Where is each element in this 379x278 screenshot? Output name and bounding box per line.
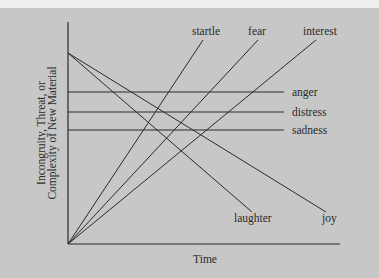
- label-distress: distress: [292, 106, 327, 118]
- y-axis-title-line-2: Complexity of New Material: [46, 66, 59, 199]
- line-laughter: [68, 53, 252, 212]
- line-joy: [68, 53, 326, 212]
- emotion-activation-diagram: startle fear interest anger distress sad…: [0, 0, 379, 278]
- line-interest: [68, 40, 316, 244]
- label-sadness: sadness: [292, 124, 328, 136]
- x-axis-title: Time: [193, 253, 217, 265]
- label-interest: interest: [303, 25, 338, 37]
- label-fear: fear: [248, 25, 266, 37]
- label-anger: anger: [292, 86, 318, 99]
- label-joy: joy: [321, 212, 337, 225]
- label-startle: startle: [192, 25, 220, 37]
- label-laughter: laughter: [234, 212, 272, 225]
